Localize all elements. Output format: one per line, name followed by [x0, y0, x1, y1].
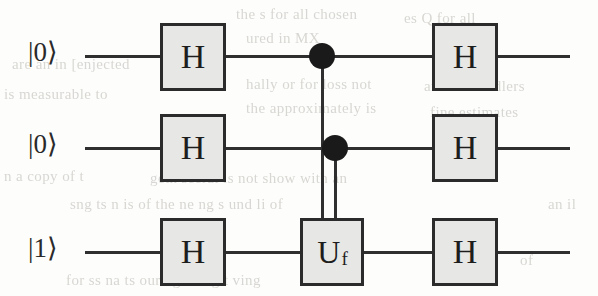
hadamard-gate-h-q0-c1: H — [160, 23, 226, 91]
qubit-wire-q2 — [85, 251, 160, 254]
hadamard-gate-h-q1-c1: H — [160, 114, 226, 182]
qubit-wire-q2 — [364, 251, 432, 254]
oracle-gate-uf-q2-c2: Uf — [300, 218, 364, 286]
quantum-circuit-diagram: |0⟩|0⟩|1⟩HHHUfHHH — [0, 0, 598, 296]
hadamard-gate-h-q2-c3: H — [432, 218, 498, 286]
qubit-wire-q2 — [226, 251, 300, 254]
qubit-input-label-q0: |0⟩ — [28, 39, 58, 66]
qubit-wire-q0 — [498, 55, 570, 58]
gate-label: H — [181, 129, 206, 167]
gate-label: H — [453, 129, 478, 167]
hadamard-gate-h-q1-c3: H — [432, 114, 498, 182]
qubit-input-label-q2: |1⟩ — [28, 235, 58, 262]
control-dot-q0 — [309, 43, 335, 69]
hadamard-gate-h-q0-c3: H — [432, 23, 498, 91]
hadamard-gate-h-q2-c1: H — [160, 218, 226, 286]
qubit-wire-q2 — [498, 251, 570, 254]
gate-label: U — [317, 234, 340, 271]
control-line — [321, 56, 324, 218]
figure-canvas: the s for all chosenes Q for allured in … — [0, 0, 598, 296]
gate-label: H — [453, 38, 478, 76]
qubit-wire-q0 — [85, 55, 160, 58]
qubit-wire-q1 — [498, 147, 570, 150]
control-dot-q1 — [322, 135, 348, 161]
gate-label: H — [181, 38, 206, 76]
qubit-wire-q1 — [85, 147, 160, 150]
gate-label: H — [181, 233, 206, 271]
gate-sublabel: f — [341, 248, 347, 270]
qubit-input-label-q1: |0⟩ — [28, 131, 58, 158]
gate-label: H — [453, 233, 478, 271]
